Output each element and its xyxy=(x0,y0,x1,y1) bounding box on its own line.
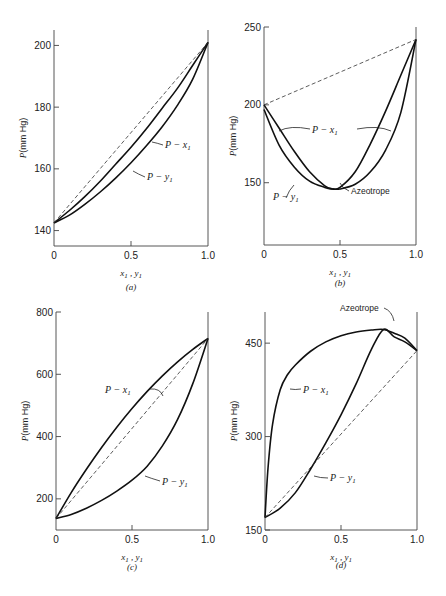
y-tick-label: 200 xyxy=(34,40,51,51)
y-tick-label: 150 xyxy=(245,525,262,536)
y-tick-label: 250 xyxy=(244,22,261,33)
y-axis-label: P(mm Hg) xyxy=(229,401,239,443)
y-tick-label: 200 xyxy=(244,99,261,110)
y-tick-label: 140 xyxy=(34,225,51,236)
chart-panel-b: 15020025000.51.0x1 , y1P(mm Hg)(b)P − x1… xyxy=(228,22,423,289)
label-p-x1: P − x1 xyxy=(164,139,191,152)
label-p-x1: P − x1 xyxy=(311,124,338,137)
y-tick-label: 300 xyxy=(245,431,262,442)
bubble-curve-p-x1 xyxy=(265,329,417,517)
x-tick-label: 0 xyxy=(262,534,268,545)
y-tick-label: 400 xyxy=(36,431,53,442)
y-tick-label: 200 xyxy=(36,493,53,504)
dew-curve-p-y1 xyxy=(265,329,417,517)
chart-panel-d: 15030045000.51.0x1 , y1P(mm Hg)(d)P − x1… xyxy=(229,303,424,570)
x-tick-label: 0 xyxy=(51,250,57,261)
panel-caption: (d) xyxy=(336,560,347,570)
label-azeotrope: Azeotrope xyxy=(351,186,390,196)
label-p-y1: P − y1 xyxy=(329,472,356,485)
label-p-x1: P − x1 xyxy=(104,384,131,397)
y-tick-label: 800 xyxy=(36,307,53,318)
axis-frame xyxy=(265,312,417,530)
label-p-y1: P − y1 xyxy=(272,191,299,204)
label-azeotrope: Azeotrope xyxy=(340,303,379,313)
label-p-y1: P − y1 xyxy=(161,476,188,489)
y-tick-label: 600 xyxy=(36,369,53,380)
y-tick-label: 160 xyxy=(34,163,51,174)
x-tick-label: 0.5 xyxy=(333,249,347,260)
y-tick-label: 150 xyxy=(244,177,261,188)
x-tick-label: 0 xyxy=(53,534,59,545)
x-tick-label: 1.0 xyxy=(201,250,215,261)
x-tick-label: 0.5 xyxy=(334,534,348,545)
label-p-y1: P − y1 xyxy=(146,171,173,184)
x-tick-label: 0 xyxy=(261,249,267,260)
chart-panel-a: 14016018020000.51.0x1 , y1P(mm Hg)(a)P −… xyxy=(18,30,215,292)
panel-caption: (c) xyxy=(127,562,137,572)
raoult-line xyxy=(54,42,208,223)
y-tick-label: 450 xyxy=(245,338,262,349)
panel-caption: (a) xyxy=(126,282,137,292)
y-tick-label: 180 xyxy=(34,102,51,113)
x-tick-label: 1.0 xyxy=(410,534,424,545)
y-axis-label: P(mm Hg) xyxy=(20,401,30,443)
label-p-x1: P − x1 xyxy=(302,384,329,397)
chart-panel-c: 20040060080000.51.0x1 , y1P(mm Hg)(c)P −… xyxy=(20,307,215,573)
axis-frame xyxy=(56,312,208,530)
vle-figure: 14016018020000.51.0x1 , y1P(mm Hg)(a)P −… xyxy=(0,0,446,596)
y-axis-label: P(mm Hg) xyxy=(228,116,238,158)
axis-frame xyxy=(54,30,208,246)
bubble-curve-p-x1 xyxy=(264,39,416,189)
x-tick-label: 1.0 xyxy=(201,534,215,545)
x-tick-label: 0.5 xyxy=(124,250,138,261)
raoult-line xyxy=(56,338,208,518)
x-tick-label: 0.5 xyxy=(125,534,139,545)
y-axis-label: P(mm Hg) xyxy=(18,118,28,160)
panel-caption: (b) xyxy=(335,278,346,288)
x-tick-label: 1.0 xyxy=(409,249,423,260)
dew-curve-p-y1 xyxy=(264,39,416,189)
x-axis-label: x1 , y1 xyxy=(119,268,142,280)
